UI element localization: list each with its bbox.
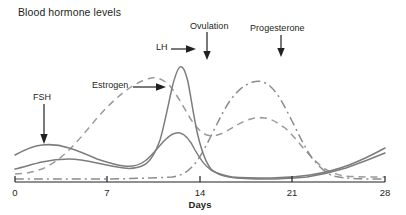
hormone-chart: Blood hormone levels — [0, 0, 406, 215]
x-tick-label-0: 0 — [12, 187, 17, 198]
annotation-arrow-progesterone — [277, 35, 284, 57]
x-tick-label-14: 14 — [195, 187, 206, 198]
chart-plot-area — [0, 0, 406, 215]
x-tick-label-28: 28 — [380, 187, 391, 198]
x-axis-title: Days — [188, 199, 211, 210]
series-estrogen-line — [15, 78, 385, 177]
annotation-label-fsh: FSH — [33, 92, 51, 102]
annotation-arrow-fsh — [40, 104, 47, 144]
annotation-label-lh: LH — [156, 42, 168, 52]
annotation-label-progesterone: Progesterone — [250, 23, 305, 33]
annotation-arrow-estrogen — [133, 83, 166, 90]
x-axis — [15, 176, 385, 182]
x-tick-label-21: 21 — [287, 187, 298, 198]
x-tick-label-7: 7 — [104, 187, 109, 198]
annotation-arrow-lh — [171, 45, 196, 52]
series-lh-line — [15, 67, 385, 179]
annotation-label-ovulation: Ovulation — [190, 21, 228, 31]
annotation-arrow-ovulation — [203, 32, 210, 60]
annotation-label-estrogen: Estrogen — [92, 80, 128, 90]
